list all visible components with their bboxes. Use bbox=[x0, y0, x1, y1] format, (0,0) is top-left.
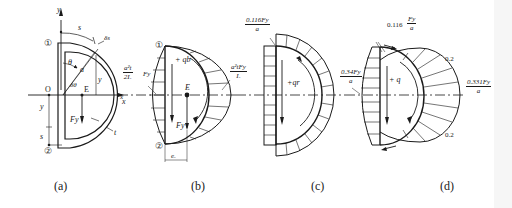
lower-tick-label: 0.2 bbox=[445, 131, 454, 139]
shear-flow-label: + qb bbox=[175, 55, 190, 64]
caption-a: (a) bbox=[54, 179, 67, 194]
centroid-label: E bbox=[184, 83, 190, 92]
caption-d: (d) bbox=[440, 179, 454, 194]
y-coordinate-label: y bbox=[97, 75, 102, 84]
panel-b: x ① ② E + qb Fy eₓ bbox=[118, 40, 236, 162]
theta-label: θ bbox=[68, 58, 72, 67]
panel-d-top-value-prefix: 0.116 bbox=[387, 21, 403, 30]
origin-label: O bbox=[45, 85, 51, 94]
shear-centre-offset-label: eₓ bbox=[171, 152, 176, 160]
y-dimension-label: y bbox=[39, 102, 44, 111]
s-dimension-label: s bbox=[40, 132, 43, 141]
flow-arrow-icon bbox=[170, 115, 174, 123]
d-s-label: δs bbox=[104, 34, 110, 42]
point-1-label: ① bbox=[44, 38, 52, 48]
panel-d-top-value: Fy a bbox=[407, 15, 416, 32]
shear-flow-label: +qr bbox=[287, 78, 300, 87]
force-arrow-icon bbox=[80, 116, 84, 124]
thickness-label: t bbox=[114, 128, 117, 137]
panel-c: +qr bbox=[236, 34, 345, 156]
force-label: Fy bbox=[175, 121, 185, 130]
panel-b-left-value-suffix: Fy bbox=[143, 70, 150, 79]
point-2-label: ② bbox=[155, 141, 163, 151]
force-label: Fy bbox=[69, 115, 79, 124]
flow-arrow-icon bbox=[385, 117, 389, 125]
force-arrow-icon bbox=[185, 123, 189, 130]
caption-c: (c) bbox=[311, 179, 324, 194]
flow-arrow-icon bbox=[280, 117, 284, 125]
d-theta-label: δθ bbox=[70, 81, 77, 89]
shear-flow-label: + q bbox=[389, 75, 400, 84]
panel-d-right-value: 0.331Fy a bbox=[466, 78, 491, 95]
panel-b-left-value: a²t 2Iₓ bbox=[123, 64, 133, 81]
upper-tick-label: 0.2 bbox=[445, 55, 454, 63]
arc-length-label: s bbox=[78, 23, 81, 32]
caption-b: (b) bbox=[191, 179, 205, 194]
panel-c-top-value: 0.116Fy a bbox=[245, 16, 270, 33]
panel-a: y x ① ② O E s θ a δθ δs y y s Fy t bbox=[28, 5, 126, 156]
panel-b-right-value: a²tFy Iₓ bbox=[230, 63, 247, 80]
panel-d: + q 0.2 0.2 bbox=[345, 42, 466, 151]
point-1-label: ① bbox=[155, 40, 163, 50]
centroid-label: E bbox=[84, 85, 89, 94]
panel-d-left-value: 0.34Fy a bbox=[340, 68, 362, 85]
radius-label: a bbox=[80, 65, 84, 74]
y-axis-label: y bbox=[56, 5, 61, 14]
point-2-label: ② bbox=[44, 146, 52, 156]
